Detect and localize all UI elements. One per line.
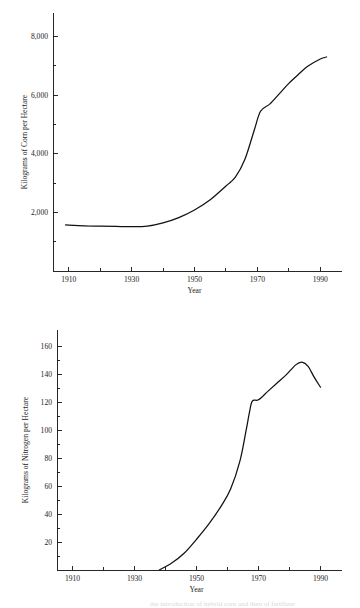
nitrogen-x-tick-label: 1910 bbox=[65, 574, 80, 583]
corn-chart-svg: 191019301950197019902,0004,0006,0008,000… bbox=[0, 0, 360, 304]
corn-data-curve bbox=[66, 57, 327, 227]
footer-partial-line: the introduction of hybrid corn and then… bbox=[0, 601, 360, 608]
nitrogen-y-tick-label: 140 bbox=[41, 370, 53, 379]
nitrogen-y-tick-label: 40 bbox=[44, 510, 52, 519]
nitrogen-y-tick-label: 120 bbox=[41, 398, 53, 407]
nitrogen-x-tick-label: 1950 bbox=[189, 574, 204, 583]
corn-x-tick-label: 1950 bbox=[187, 275, 202, 284]
corn-x-tick-label: 1930 bbox=[124, 275, 139, 284]
corn-y-axis-title: Kilograms of Corn per Hectare bbox=[20, 94, 29, 189]
nitrogen-x-axis-title: Year bbox=[190, 585, 204, 594]
corn-x-tick-label: 1970 bbox=[250, 275, 265, 284]
nitrogen-y-tick-label: 100 bbox=[41, 426, 53, 435]
corn-y-tick-label: 4,000 bbox=[31, 149, 48, 158]
nitrogen-data-curve bbox=[159, 362, 320, 570]
nitrogen-y-tick-label: 160 bbox=[41, 342, 53, 351]
nitrogen-y-tick-label: 60 bbox=[44, 482, 52, 491]
corn-yield-chart: 191019301950197019902,0004,0006,0008,000… bbox=[0, 0, 360, 304]
corn-x-tick-label: 1910 bbox=[61, 275, 76, 284]
corn-y-tick-label: 6,000 bbox=[31, 91, 48, 100]
nitrogen-y-axis-title: Kilograms of Nitrogen per Hectare bbox=[21, 396, 30, 503]
nitrogen-chart-svg: 1910193019501970199020406080100120140160… bbox=[0, 304, 360, 608]
corn-y-tick-label: 8,000 bbox=[31, 32, 48, 41]
nitrogen-plot-group: 1910193019501970199020406080100120140160… bbox=[21, 330, 342, 594]
nitrogen-chart: 1910193019501970199020406080100120140160… bbox=[0, 304, 360, 608]
figure-page: 191019301950197019902,0004,0006,0008,000… bbox=[0, 0, 360, 608]
nitrogen-x-tick-label: 1990 bbox=[313, 574, 328, 583]
corn-plot-group: 191019301950197019902,0004,0006,0008,000… bbox=[20, 13, 342, 295]
corn-y-tick-label: 2,000 bbox=[31, 208, 48, 217]
nitrogen-y-tick-label: 80 bbox=[44, 454, 52, 463]
nitrogen-x-tick-label: 1970 bbox=[251, 574, 266, 583]
nitrogen-y-tick-label: 20 bbox=[44, 538, 52, 547]
nitrogen-x-tick-label: 1930 bbox=[127, 574, 142, 583]
corn-x-tick-label: 1990 bbox=[313, 275, 328, 284]
page-footer-text-sliver: the introduction of hybrid corn and then… bbox=[0, 601, 360, 608]
corn-x-axis-title: Year bbox=[188, 286, 202, 295]
